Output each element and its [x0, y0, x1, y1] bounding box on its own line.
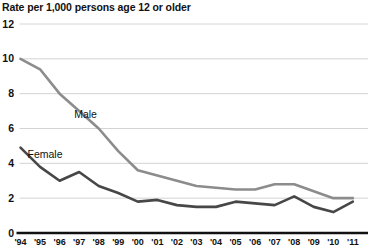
y-tick-label: 4 — [0, 157, 14, 169]
x-tick-label: '11 — [342, 237, 364, 247]
y-tick-label: 8 — [0, 87, 14, 99]
chart-plot-area — [0, 0, 374, 252]
y-tick-label: 10 — [0, 52, 14, 64]
series-line-female — [21, 148, 353, 212]
series-label-male: Male — [74, 108, 97, 120]
y-tick-label: 6 — [0, 122, 14, 134]
y-tick-label: 2 — [0, 192, 14, 204]
series-label-female: Female — [28, 148, 63, 160]
gridline-group — [20, 24, 369, 198]
chart-container: Rate per 1,000 persons age 12 or older 0… — [0, 0, 374, 252]
series-group — [21, 59, 353, 212]
y-tick-label: 12 — [0, 18, 14, 30]
